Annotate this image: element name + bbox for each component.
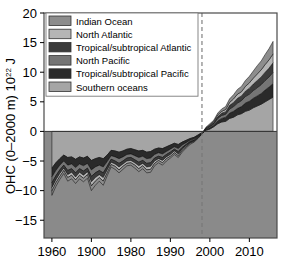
legend-label: Southern oceans [76,82,148,93]
x-tick-label: 1990 [156,244,185,259]
legend-label: Indian Ocean [76,16,133,27]
y-tick-label: −10 [15,183,37,198]
y-tick-label: 15 [23,35,37,50]
legend-label: Tropical/subtropical Pacific [76,68,189,79]
legend-label: North Atlantic [76,29,133,40]
x-tick-label: 2010 [235,244,264,259]
legend-swatch [49,82,71,92]
x-tick-label: 1900 [77,244,106,259]
y-tick-label: 20 [23,6,37,21]
legend-swatch [49,42,71,52]
svg-text:OHC (0–2000 m) 1022 J: OHC (0–2000 m) 1022 J [3,58,18,194]
x-tick-label: 2000 [195,244,224,259]
y-axis-title-main: OHC (0–2000 m) 10 [3,77,18,194]
legend-swatch [49,56,71,66]
y-tick-label: 0 [30,124,37,139]
legend-swatch [49,69,71,79]
figure-ocean-heat-content: −15−10−505101520 19601900198019902000201… [0,0,287,267]
legend-swatch [49,16,71,26]
legend-label: North Pacific [76,55,130,66]
y-axis-title-tail: J [3,58,18,68]
legend: Indian OceanNorth AtlanticTropical/subtr… [46,13,198,96]
y-tick-label: 10 [23,65,37,80]
legend-swatch [49,29,71,39]
legend-label: Tropical/subtropical Atlantic [76,42,192,53]
y-tick-label: 5 [30,94,37,109]
y-tick-label: −15 [15,213,37,228]
y-axis-title: OHC (0–2000 m) 1022 J [3,58,18,194]
ohc-stacked-area-chart: −15−10−505101520 19601900198019902000201… [0,0,287,267]
y-tick-label: −5 [22,154,37,169]
x-tick-label: 1960 [37,244,66,259]
x-tick-label: 1980 [116,244,145,259]
